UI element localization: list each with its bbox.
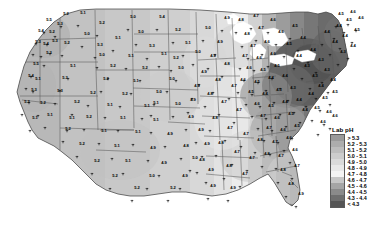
site-marker-icon xyxy=(254,28,257,31)
site-marker-icon xyxy=(276,130,279,133)
site-marker-icon xyxy=(121,161,124,164)
legend-label: < 4.3 xyxy=(347,201,359,207)
site-marker-icon xyxy=(236,80,239,83)
site-ph-label: 4.6 xyxy=(270,18,275,22)
site-marker-icon xyxy=(306,50,309,53)
site-marker-icon xyxy=(264,106,267,109)
site-ph-label: 4.4 xyxy=(308,92,313,96)
site-ph-label: 4.9 xyxy=(224,16,229,20)
site-ph-label: 4.9 xyxy=(150,146,155,150)
site-marker-icon xyxy=(270,66,273,69)
site-ph-label: 4.9 xyxy=(204,142,209,146)
site-ph-label: 5.2 xyxy=(134,186,139,190)
site-ph-label: 4.7 xyxy=(236,108,241,112)
site-marker-icon xyxy=(266,20,269,23)
site-marker-icon xyxy=(206,186,209,189)
site-ph-label: 4.4 xyxy=(296,98,301,102)
site-marker-icon xyxy=(27,90,30,93)
site-ph-label: 5.1 xyxy=(115,36,120,40)
site-ph-label: 4.4 xyxy=(300,36,305,40)
site-marker-icon xyxy=(282,44,285,47)
site-marker-icon xyxy=(220,18,223,21)
site-ph-label: 4.8 xyxy=(264,152,269,156)
site-marker-icon xyxy=(149,103,152,106)
site-ph-label: 4.4 xyxy=(282,74,287,78)
site-marker-icon xyxy=(300,66,303,69)
site-ph-label: 5.2 xyxy=(99,21,104,25)
site-marker-icon xyxy=(29,64,32,67)
site-marker-icon xyxy=(145,176,148,179)
site-marker-icon xyxy=(174,68,177,71)
site-marker-icon xyxy=(240,34,243,37)
site-ph-label: 4.5 xyxy=(260,68,265,72)
site-marker-icon xyxy=(197,72,200,75)
site-ph-label: 5.0 xyxy=(84,32,89,36)
site-marker-icon xyxy=(217,102,220,105)
site-marker-icon xyxy=(298,110,301,113)
site-marker-icon xyxy=(264,78,267,81)
site-ph-label: 4.9 xyxy=(230,186,235,190)
site-ph-label: 4.6 xyxy=(320,120,325,124)
legend-title: Lab pH xyxy=(332,126,383,133)
site-ph-label: 4.9 xyxy=(167,132,172,136)
site-ph-label: 4.9 xyxy=(217,40,222,44)
site-ph-label: 4.8 xyxy=(257,138,262,142)
site-ph-label: 5.1 xyxy=(120,116,125,120)
site-marker-icon xyxy=(227,86,230,89)
site-marker-icon xyxy=(95,55,98,58)
site-marker-icon xyxy=(342,20,345,23)
legend-entry: < 4.3 xyxy=(330,201,383,207)
site-marker-icon xyxy=(322,112,325,115)
site-marker-icon xyxy=(93,45,96,48)
site-marker-icon xyxy=(290,166,293,169)
site-marker-icon xyxy=(328,116,331,119)
site-ph-label: 4.6 xyxy=(278,30,283,34)
site-ph-label: 5.0 xyxy=(156,90,161,94)
site-marker-icon xyxy=(346,12,349,15)
site-marker-icon xyxy=(253,140,256,143)
site-ph-label: 5.2 xyxy=(64,41,69,45)
site-ph-label: 5.2 xyxy=(40,101,45,105)
site-ph-label: 4.9 xyxy=(208,168,213,172)
site-ph-label: 4.5 xyxy=(292,24,297,28)
site-marker-icon xyxy=(320,32,323,35)
site-ph-label: 4.6 xyxy=(270,52,275,56)
site-marker-icon xyxy=(200,144,203,147)
site-ph-label: 4.3 xyxy=(304,64,309,68)
site-ph-label: 4.4 xyxy=(330,78,335,82)
site-ph-label: 5.3 xyxy=(62,76,67,80)
site-marker-icon xyxy=(252,58,255,61)
site-ph-label: 4.6 xyxy=(246,66,251,70)
site-ph-label: 5.1 xyxy=(161,52,166,56)
site-marker-icon xyxy=(48,41,51,44)
site-ph-label: 4.7 xyxy=(243,132,248,136)
site-ph-label: 4.7 xyxy=(242,54,247,58)
site-ph-label: 5.1 xyxy=(107,103,112,107)
site-ph-label: 4.3 xyxy=(290,86,295,90)
site-marker-icon xyxy=(274,156,277,159)
site-ph-label: 5.1 xyxy=(125,159,130,163)
site-ph-label: 5.2 xyxy=(112,174,117,178)
site-ph-label: 5.2 xyxy=(63,12,68,16)
site-ph-label: 4.6 xyxy=(292,148,297,152)
site-ph-label: 5.0 xyxy=(149,174,154,178)
site-marker-icon xyxy=(194,130,197,133)
site-marker-icon xyxy=(214,143,217,146)
site-marker-icon xyxy=(304,94,307,97)
site-ph-label: 5.1 xyxy=(135,130,140,134)
site-ph-label: 4.7 xyxy=(294,164,299,168)
site-marker-icon xyxy=(290,126,293,129)
site-marker-icon xyxy=(134,32,137,35)
site-marker-icon xyxy=(165,79,168,82)
site-marker-icon xyxy=(155,17,158,20)
site-marker-icon xyxy=(276,170,279,173)
site-marker-icon xyxy=(157,54,160,57)
site-ph-label: 4.7 xyxy=(260,114,265,118)
site-ph-label: 5.2 xyxy=(94,159,99,163)
site-marker-icon xyxy=(131,132,134,135)
site-marker-icon xyxy=(178,176,181,179)
site-ph-label: 4.9 xyxy=(188,115,193,119)
site-marker-icon xyxy=(24,76,27,79)
site-marker-icon xyxy=(186,100,189,103)
site-ph-label: 5.1 xyxy=(70,64,75,68)
